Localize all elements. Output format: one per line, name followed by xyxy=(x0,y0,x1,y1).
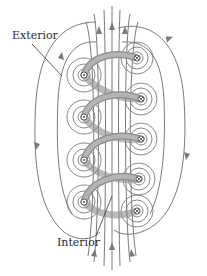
field-line xyxy=(94,14,99,262)
interior-label: Interior xyxy=(57,237,100,248)
arrow-up-icon xyxy=(129,249,135,257)
arrow-up-icon xyxy=(91,249,97,257)
arrow-icon xyxy=(184,152,190,160)
arrow-up-icon xyxy=(109,242,115,250)
wire-dot-icon xyxy=(81,72,87,78)
wire-dot-icon xyxy=(81,114,87,120)
wire-cross-icon xyxy=(138,96,144,102)
wire-cross-icon xyxy=(134,208,140,214)
wire-dot-icon xyxy=(81,157,87,163)
wire-cross-icon xyxy=(138,136,144,142)
arrow-up-icon xyxy=(109,22,115,30)
wire-cross-icon xyxy=(136,176,142,182)
arrow-up-icon xyxy=(96,26,102,34)
exterior-label: Exterior xyxy=(12,30,58,41)
arrow-icon xyxy=(58,52,64,60)
wire-cross-icon xyxy=(134,55,140,61)
exterior-pointer-line xyxy=(32,44,62,76)
field-line xyxy=(86,22,94,256)
wire-dot-icon xyxy=(81,199,87,205)
arrow-icon xyxy=(164,33,174,42)
